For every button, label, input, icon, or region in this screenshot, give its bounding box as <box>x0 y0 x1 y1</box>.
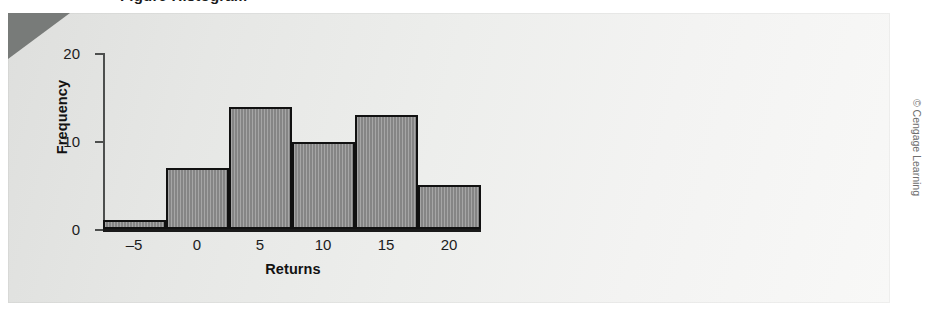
histogram-bar <box>292 142 355 230</box>
y-axis-tick-0 <box>95 229 103 231</box>
x-axis-tick-label: 10 <box>301 236 345 253</box>
clipped-figure-title-text: Figure Histogram <box>120 0 247 4</box>
x-axis-tick-label: 0 <box>175 236 219 253</box>
x-axis-tick-label: –5 <box>112 236 156 253</box>
histogram-bar <box>103 220 166 229</box>
x-axis-tick-label: 20 <box>427 236 471 253</box>
histogram-plot-area: 20 10 0 Frequency –5 0 5 10 15 20 Return… <box>8 13 890 303</box>
x-axis-line <box>103 229 481 232</box>
copyright-credit: © Cengage Learning <box>911 99 923 196</box>
x-axis-tick-label: 5 <box>238 236 282 253</box>
y-axis-tick-label-0: 0 <box>40 221 80 238</box>
figure-panel: 20 10 0 Frequency –5 0 5 10 15 20 Return… <box>8 13 890 303</box>
histogram-bar <box>229 107 292 230</box>
y-axis-line <box>103 53 105 231</box>
y-axis-title: Frequency <box>54 57 70 177</box>
y-axis-tick-10 <box>95 141 103 143</box>
histogram-bar <box>418 185 481 229</box>
clipped-figure-title: Figure Histogram <box>0 0 925 11</box>
x-axis-tick-label: 15 <box>364 236 408 253</box>
histogram-bar <box>166 168 229 229</box>
y-axis-tick-20 <box>95 53 103 55</box>
x-axis-title: Returns <box>168 261 418 277</box>
histogram-bar <box>355 115 418 229</box>
